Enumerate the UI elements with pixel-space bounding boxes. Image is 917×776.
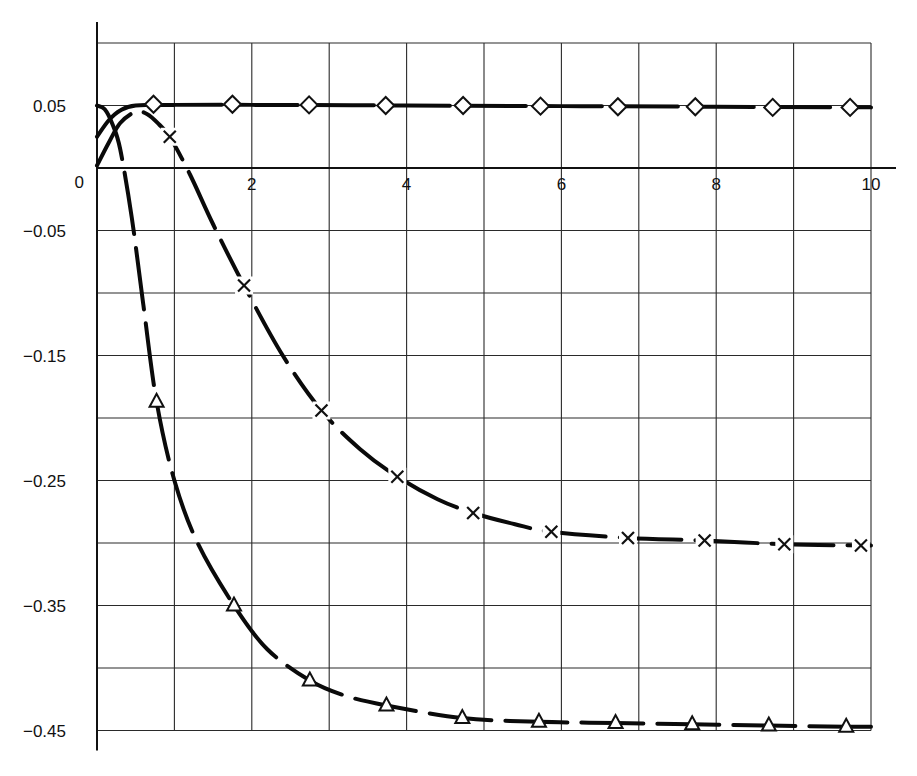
cross-marker-icon xyxy=(852,537,870,555)
x-tick-label: 10 xyxy=(862,175,881,194)
y-axis-tick-labels: 0.050−0.05−0.15−0.25−0.35−0.45 xyxy=(23,97,84,741)
x-tick-label: 6 xyxy=(557,175,566,194)
diamond-marker-icon xyxy=(301,96,318,113)
diamond-marker-icon xyxy=(687,98,704,115)
x-tick-label: 8 xyxy=(711,175,720,194)
cross-marker-icon xyxy=(312,402,330,420)
y-tick-label: −0.15 xyxy=(23,347,66,366)
y-tick-label: −0.05 xyxy=(23,222,66,241)
cross-marker-icon xyxy=(542,523,560,541)
diamond-marker-icon xyxy=(609,98,626,115)
x-tick-label: 2 xyxy=(247,175,256,194)
line-chart: 246810 0.050−0.05−0.15−0.25−0.35−0.45 xyxy=(0,0,917,776)
cross-marker-icon xyxy=(696,532,714,550)
cross-marker-icon xyxy=(235,277,253,295)
cross-marker-icon xyxy=(619,529,637,547)
y-tick-label: 0.05 xyxy=(33,97,66,116)
chart-grid xyxy=(97,43,871,731)
diamond-marker-icon xyxy=(145,96,162,113)
diamond-marker-icon xyxy=(377,97,394,114)
diamond-marker-icon xyxy=(455,97,472,114)
y-tick-label: −0.45 xyxy=(23,722,66,741)
y-tick-label: −0.35 xyxy=(23,597,66,616)
diamond-marker-icon xyxy=(224,96,241,113)
cross-marker-icon xyxy=(388,468,406,486)
x-axis-tick-labels: 246810 xyxy=(247,175,880,194)
diamond-marker-icon xyxy=(842,99,859,116)
triangle-marker-icon xyxy=(150,394,164,407)
y-tick-label: 0 xyxy=(75,173,84,192)
diamond-marker-icon xyxy=(764,99,781,116)
x-tick-label: 4 xyxy=(402,175,411,194)
cross-marker-icon xyxy=(775,535,793,553)
y-tick-label: −0.25 xyxy=(23,472,66,491)
diamond-marker-icon xyxy=(532,98,549,115)
cross-marker-icon xyxy=(161,128,179,146)
cross-marker-icon xyxy=(464,504,482,522)
chart-axes xyxy=(97,22,896,751)
